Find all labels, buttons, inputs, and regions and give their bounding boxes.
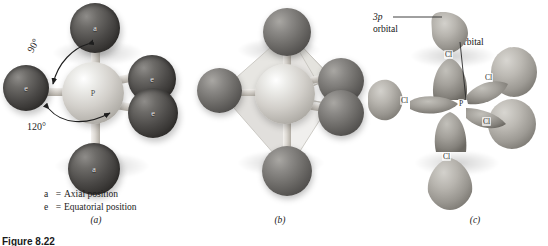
atom-axial-top: a xyxy=(70,3,120,53)
legend-text-equatorial: Equatorial position xyxy=(64,202,137,212)
atom-label-equatorial-left: e xyxy=(3,84,49,93)
panel-b-caption: (b) xyxy=(268,215,292,225)
atom-equatorial-left: e xyxy=(3,65,49,111)
atom-label-phosphorus: P xyxy=(62,89,124,98)
atom-axial-top xyxy=(263,8,311,56)
atom-label-axial-top: a xyxy=(70,24,120,33)
atom-center-phosphorus xyxy=(255,64,315,124)
orbital-lobes xyxy=(362,0,548,246)
panel-a-stage: a e P e e a xyxy=(0,0,192,246)
legend-text-axial: Axial position xyxy=(64,189,118,199)
atom-equatorial-right-lower: e xyxy=(128,88,178,138)
atom-label-equatorial-right-upper: e xyxy=(128,75,176,84)
atom-equatorial-right-lower xyxy=(318,90,364,136)
atom-center-phosphorus: P xyxy=(62,62,124,124)
panel-a-ball-and-stick: a e P e e a xyxy=(0,0,192,246)
panel-b-polyhedron: (b) xyxy=(192,0,362,246)
legend-eq-axial: = xyxy=(53,188,64,201)
figure-root: a e P e e a xyxy=(0,0,548,246)
atom-label-axial-bottom: a xyxy=(68,165,120,174)
atom-equatorial-left xyxy=(197,68,242,113)
angle-label-120: 120° xyxy=(27,121,46,132)
legend-key-equatorial: e xyxy=(44,201,53,214)
panel-c-orbital-overlap: Cl Cl P Cl Cl Cl 3p orbital sp3d orbital… xyxy=(362,0,548,246)
figure-number-caption: Figure 8.22 xyxy=(2,236,55,246)
panel-a-caption: (a) xyxy=(84,215,108,225)
legend-row-axial: a=Axial position xyxy=(44,188,137,201)
legend-row-equatorial: e=Equatorial position xyxy=(44,201,137,214)
angle-label-90: 90° xyxy=(25,37,41,55)
panel-b-stage xyxy=(192,0,362,246)
atom-axial-bottom xyxy=(262,146,312,196)
panel-a-legend: a=Axial position e=Equatorial position xyxy=(44,188,137,214)
legend-eq-equatorial: = xyxy=(53,201,64,214)
atom-label-equatorial-right-lower: e xyxy=(128,109,178,118)
legend-key-axial: a xyxy=(44,188,53,201)
panel-c-stage: Cl Cl P Cl Cl Cl 3p orbital sp3d orbital xyxy=(362,0,548,246)
